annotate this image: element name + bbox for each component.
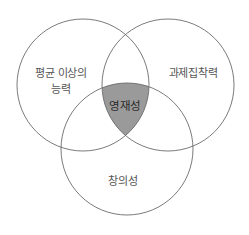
label-above-average-ability: 평균 이상의 능력 (30, 67, 92, 97)
label-task-commitment: 과제집착력 (163, 67, 223, 81)
venn-diagram (0, 0, 249, 235)
label-above-average-ability-line2: 능력 (30, 83, 92, 97)
label-above-average-ability-line1: 평균 이상의 (30, 67, 92, 81)
label-creativity: 창의성 (103, 175, 143, 189)
label-giftedness: 영재성 (104, 99, 146, 113)
